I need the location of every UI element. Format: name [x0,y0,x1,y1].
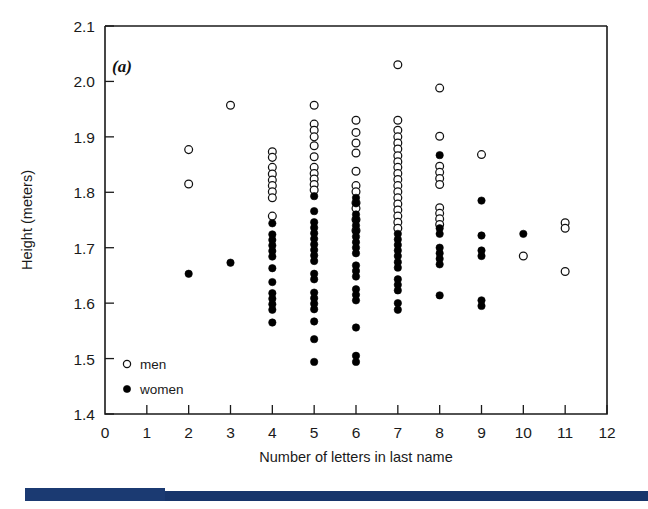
data-point-women [310,276,317,283]
legend-marker-women [123,385,130,392]
data-point-women [478,302,485,309]
data-point-men [310,142,318,150]
x-tick-label: 5 [310,424,319,441]
data-point-men [352,149,360,157]
data-point-women [478,252,485,259]
x-tick-label: 7 [394,424,403,441]
data-point-men [268,212,276,220]
data-point-women [269,319,276,326]
data-point-women [269,306,276,313]
data-point-men [478,151,486,159]
data-point-men [310,133,318,141]
data-point-men [268,194,276,202]
x-tick-label: 8 [435,424,444,441]
data-point-women [310,335,317,342]
panel-label: (a) [112,57,132,76]
data-point-men [352,116,360,124]
x-tick-label: 0 [101,424,110,441]
data-point-men [519,252,527,260]
y-tick-label: 1.7 [73,240,95,257]
data-point-men [436,84,444,92]
x-tick-label: 2 [184,424,193,441]
data-point-women [478,232,485,239]
data-point-women [269,220,276,227]
y-tick-label: 1.4 [73,406,95,423]
data-point-women [478,197,485,204]
data-point-women [310,207,317,214]
legend-marker-men [123,360,130,367]
data-point-men [185,146,193,154]
data-point-women [436,292,443,299]
x-tick-label: 6 [352,424,361,441]
x-tick-label: 3 [226,424,235,441]
data-point-men [436,181,444,189]
data-point-women [352,358,359,365]
data-point-women [352,297,359,304]
y-tick-label: 1.5 [73,351,95,368]
data-point-women [436,261,443,268]
x-axis-title: Number of letters in last name [259,449,452,465]
data-point-men [436,132,444,140]
legend-label-men: men [140,357,166,372]
data-point-women [310,318,317,325]
data-point-men [310,153,318,161]
bottom-decoration-bar [0,480,648,509]
data-point-men [185,180,193,188]
data-point-women [185,270,192,277]
data-point-women [436,151,443,158]
data-point-women [520,230,527,237]
data-point-men [310,101,318,109]
plot-background [0,0,648,480]
data-point-women [310,306,317,313]
data-point-men [394,61,402,69]
x-tick-label: 11 [557,424,573,441]
y-tick-label: 2.0 [73,73,95,90]
data-point-women [352,273,359,280]
data-point-women [269,278,276,285]
x-tick-label: 10 [515,424,533,441]
data-point-women [394,306,401,313]
y-tick-label: 1.8 [73,184,95,201]
data-point-women [310,257,317,264]
data-point-women [352,250,359,257]
y-axis-title: Height (meters) [19,170,35,270]
x-tick-label: 9 [477,424,486,441]
data-point-men [394,116,402,124]
y-tick-label: 2.1 [73,18,95,35]
data-point-men [352,129,360,137]
bottom-bar-left-segment [25,488,165,501]
data-point-women [394,264,401,271]
data-point-women [352,200,359,207]
data-point-women [269,265,276,272]
data-point-men [227,101,235,109]
data-point-women [227,259,234,266]
data-point-women [310,358,317,365]
data-point-men [352,167,360,175]
legend-label-women: women [139,382,184,397]
data-point-men [561,224,569,232]
bottom-bar-right-segment [165,491,648,501]
x-tick-label: 12 [598,424,615,441]
data-point-men [268,153,276,161]
data-point-men [561,268,569,276]
x-tick-label: 1 [143,424,152,441]
data-point-women [310,192,317,199]
data-point-women [352,324,359,331]
scatter-plot: 1.41.51.61.71.81.92.02.1 012345678910111… [0,0,648,480]
y-tick-label: 1.9 [73,129,95,146]
y-tick-label: 1.6 [73,295,95,312]
data-point-women [394,287,401,294]
data-point-men [352,139,360,147]
data-point-women [436,230,443,237]
data-point-women [394,299,401,306]
figure-panel: 1.41.51.61.71.81.92.02.1 012345678910111… [0,0,648,480]
data-point-women [269,253,276,260]
x-tick-label: 4 [268,424,277,441]
